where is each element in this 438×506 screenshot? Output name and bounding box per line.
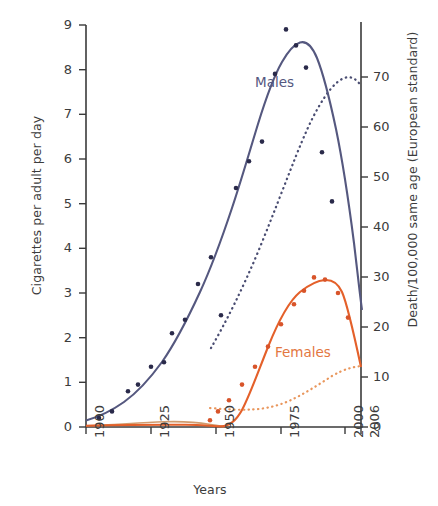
ytick-right-20: 20 [373, 319, 401, 334]
xtick-2000: 2000 [351, 405, 366, 438]
series-males-deaths [211, 77, 361, 348]
xtick-1950: 1950 [222, 405, 237, 438]
y-axis-left-title: Cigarettes per adult per day [29, 86, 44, 326]
series-label-males: Males [255, 74, 294, 90]
xtick-1925: 1925 [157, 405, 172, 438]
axis-lines [86, 22, 361, 427]
ytick-left-1: 1 [50, 374, 72, 389]
ytick-left-2: 2 [50, 330, 72, 345]
series-label-females: Females [275, 344, 331, 360]
right-axis-ticks [361, 77, 368, 427]
series-males-cigarettes [86, 42, 362, 420]
ytick-left-7: 7 [50, 106, 72, 121]
xtick-2006: 2006 [367, 405, 382, 438]
ytick-left-9: 9 [50, 17, 72, 32]
ytick-left-4: 4 [50, 240, 72, 255]
xtick-1900: 1900 [92, 405, 107, 438]
ytick-left-5: 5 [50, 196, 72, 211]
chart-figure: 0 1 2 3 4 5 6 7 8 9 0 10 20 30 40 50 60 … [0, 0, 438, 506]
series-females-deaths [210, 366, 361, 410]
ytick-left-6: 6 [50, 151, 72, 166]
ytick-left-3: 3 [50, 285, 72, 300]
left-axis-ticks [79, 25, 86, 427]
ytick-right-60: 60 [373, 119, 401, 134]
x-axis-title: Years [150, 482, 270, 497]
series-males-points [97, 27, 335, 420]
y-axis-right-title: Death/100,000 same age (European standar… [405, 68, 420, 328]
ytick-right-40: 40 [373, 219, 401, 234]
ytick-left-8: 8 [50, 62, 72, 77]
ytick-right-10: 10 [373, 369, 401, 384]
ytick-left-0: 0 [50, 419, 72, 434]
ytick-right-70: 70 [373, 69, 401, 84]
xtick-1975: 1975 [287, 405, 302, 438]
ytick-right-50: 50 [373, 169, 401, 184]
ytick-right-30: 30 [373, 269, 401, 284]
